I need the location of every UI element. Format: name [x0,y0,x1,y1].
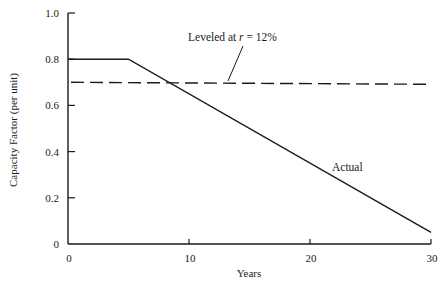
actual-line [68,59,431,232]
chart-canvas: 00.20.40.60.81.0 0102030 Leveled at r = … [0,0,446,291]
y-tick-label: 0.6 [45,99,59,111]
y-ticks [68,13,75,198]
leveled-line [71,82,431,84]
leveled-annotation-leader [228,46,243,81]
y-tick-label: 1.0 [45,7,59,19]
x-tick-label: 10 [185,252,197,264]
x-ticks [189,239,431,244]
actual-annotation: Actual [332,161,363,173]
x-tick-label: 30 [427,252,439,264]
leveled-annotation: Leveled at r = 12% [188,31,277,43]
y-tick-label: 0 [54,238,60,250]
y-tick-label: 0.2 [45,192,59,204]
y-tick-label: 0.4 [45,146,59,158]
x-tick-label: 20 [306,252,318,264]
series-group [68,59,431,232]
x-tick-label: 0 [66,252,72,264]
y-axis-title: Capacity Factor (per unit) [7,73,20,187]
x-axis-title: Years [237,267,262,279]
y-tick-labels: 00.20.40.60.81.0 [45,7,59,250]
x-tick-labels: 0102030 [66,252,438,264]
y-tick-label: 0.8 [45,53,59,65]
